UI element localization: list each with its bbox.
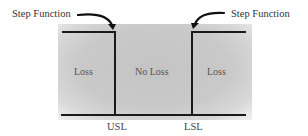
left-arrow-icon <box>78 14 112 25</box>
right-arrowhead-icon <box>191 23 199 29</box>
left-loss-label: Loss <box>74 66 93 77</box>
right-arrow-icon <box>195 13 224 24</box>
left-arrowhead-icon <box>108 24 116 30</box>
lsl-label: LSL <box>184 121 203 132</box>
step-loss-diagram: Step Function Step Function Loss No Loss… <box>0 0 308 136</box>
right-callout-label: Step Function <box>231 8 290 19</box>
left-callout-label: Step Function <box>12 8 71 19</box>
usl-label: USL <box>107 121 127 132</box>
no-loss-label: No Loss <box>135 66 169 77</box>
right-loss-label: Loss <box>207 66 226 77</box>
